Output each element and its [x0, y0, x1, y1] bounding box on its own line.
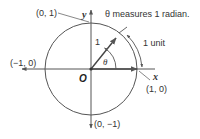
label-point-top: (0, 1): [36, 8, 57, 18]
angle-theta-label: θ: [103, 57, 108, 67]
label-point-left: (−1, 0): [10, 58, 36, 68]
leader-right: [139, 71, 150, 80]
arc-length-indicator: [127, 35, 142, 67]
y-axis-label: y: [81, 9, 87, 20]
origin-point: [89, 67, 92, 70]
unit-circle-diagram: (0, 1) y θ measures 1 radian. 1 unit 1 θ…: [0, 0, 200, 139]
label-point-bottom: (0, −1): [94, 119, 120, 129]
x-axis-label: x: [152, 71, 158, 82]
radius-label: 1: [95, 37, 100, 47]
origin-label: O: [79, 73, 87, 84]
arc-length-label: 1 unit: [143, 38, 166, 48]
caption-text: θ measures 1 radian.: [105, 9, 190, 19]
arc-end-tick: [119, 27, 127, 33]
label-point-right: (1, 0): [146, 84, 167, 94]
